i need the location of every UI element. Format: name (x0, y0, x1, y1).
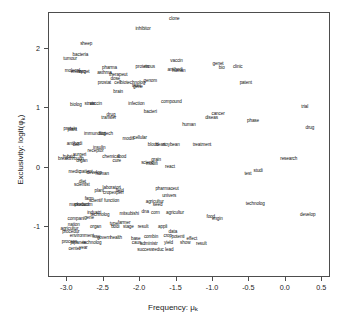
word-label: organ (76, 158, 87, 163)
word-label: plant (68, 127, 77, 132)
word-label: bacteri (144, 110, 157, 115)
word-label: develop (300, 213, 315, 218)
word-label: diseas (205, 116, 218, 121)
word-label: react (165, 164, 175, 169)
word-label: result (138, 224, 149, 229)
word-label: crop (103, 191, 112, 196)
word-label: mitsubishi (119, 211, 138, 216)
word-label: univers (162, 194, 176, 199)
word-label: administr (140, 242, 158, 247)
x-tick-mark (176, 277, 177, 281)
word-label: compound (161, 100, 182, 105)
x-tick-mark (103, 277, 104, 281)
word-label: year (79, 246, 88, 251)
word-label: mous (144, 65, 155, 70)
word-label: function (104, 198, 119, 203)
word-label: reduc (153, 248, 164, 253)
x-tick-label: -3.0 (60, 283, 72, 292)
y-axis-title-text: Exclusivity: logit(φ (16, 120, 25, 184)
word-label: trial (301, 105, 308, 110)
word-label: lead (165, 248, 173, 253)
x-tick-mark (285, 277, 286, 281)
x-tick-label: -1.0 (206, 283, 218, 292)
x-tick-label: -1.5 (169, 283, 181, 292)
word-label: result (196, 242, 207, 247)
x-tick-label: -0.5 (242, 283, 254, 292)
word-label: agricultur (166, 211, 184, 216)
word-label: potenti (171, 235, 184, 240)
word-label: biotech (99, 132, 113, 137)
word-label: studi (254, 169, 263, 174)
word-label: stage (123, 225, 134, 230)
y-tick-label: -1 (34, 222, 40, 231)
x-axis-title-subscript: k (195, 305, 198, 312)
word-label: clone (169, 17, 179, 22)
word-label: dna (142, 210, 149, 215)
word-label: tumour (63, 57, 77, 62)
word-label: target (78, 70, 89, 75)
word-label: appli (158, 224, 167, 229)
word-label: cell (73, 143, 80, 148)
x-axis-title-text: Frequency: μ (148, 303, 195, 312)
word-label: combin (144, 235, 158, 240)
word-label: environment (70, 233, 94, 238)
y-tick-label: 0 (36, 162, 40, 171)
x-tick-mark (212, 277, 213, 281)
word-label: sheep (80, 42, 92, 47)
word-label: prostat (98, 81, 111, 86)
word-label: cellular (133, 136, 147, 141)
word-label: show (180, 241, 190, 246)
x-tick-mark (139, 277, 140, 281)
word-label: gene (133, 85, 143, 90)
word-label: vaccin (170, 58, 182, 63)
x-axis-title: Frequency: μk (0, 303, 346, 312)
word-label: cure (112, 159, 121, 164)
word-label: technolog (246, 202, 265, 207)
word-label: seed (153, 202, 163, 207)
x-tick-mark (66, 277, 67, 281)
word-label: brain (113, 90, 123, 95)
y-axis-title-tail: ) (16, 115, 25, 118)
word-label: human (182, 123, 196, 128)
y-tick-mark (44, 167, 48, 168)
word-label: biolog (70, 102, 82, 107)
word-label: soybean (163, 142, 180, 147)
word-label: infection (128, 101, 144, 106)
word-label: treatment (193, 142, 212, 147)
word-label: success (137, 248, 153, 253)
word-label: transfer (101, 116, 116, 121)
x-tick-label: -2.0 (133, 283, 145, 292)
word-label: cell (114, 81, 121, 86)
word-label: medic (69, 170, 81, 175)
word-label: human (172, 69, 186, 74)
word-label: organ (90, 225, 101, 230)
word-label: clinic (233, 64, 243, 69)
word-label: test (244, 171, 251, 176)
word-label: inhibitor (135, 27, 150, 32)
y-tick-label: 2 (36, 43, 40, 52)
word-label: pharmaceut (155, 186, 178, 191)
word-label: genom (144, 79, 158, 84)
word-label: experi (112, 191, 124, 196)
word-label: gene (84, 216, 94, 221)
x-tick-mark (321, 277, 322, 281)
x-tick-label: 0.0 (280, 283, 290, 292)
x-tick-mark (248, 277, 249, 281)
word-label: bodi (111, 225, 119, 230)
word-label: research (280, 157, 297, 162)
word-label: yield (164, 241, 173, 246)
word-label: scientist (74, 183, 90, 188)
y-axis-title-subscript: k (19, 117, 26, 120)
y-axis-title: Exclusivity: logit(φk) (16, 70, 25, 230)
word-scatter-plot: cloneinhibitorsheepbacteriatumourvaccing… (0, 0, 346, 325)
y-tick-mark (44, 107, 48, 108)
word-label: modifi (146, 162, 158, 167)
word-label: bio (219, 65, 225, 70)
word-label: compani (68, 217, 85, 222)
y-tick-mark (44, 226, 48, 227)
word-label: human (95, 171, 109, 176)
word-label: health (110, 235, 122, 240)
word-label: engin (212, 217, 223, 222)
word-label: vaccin (89, 102, 101, 107)
word-label: phase (247, 119, 259, 124)
